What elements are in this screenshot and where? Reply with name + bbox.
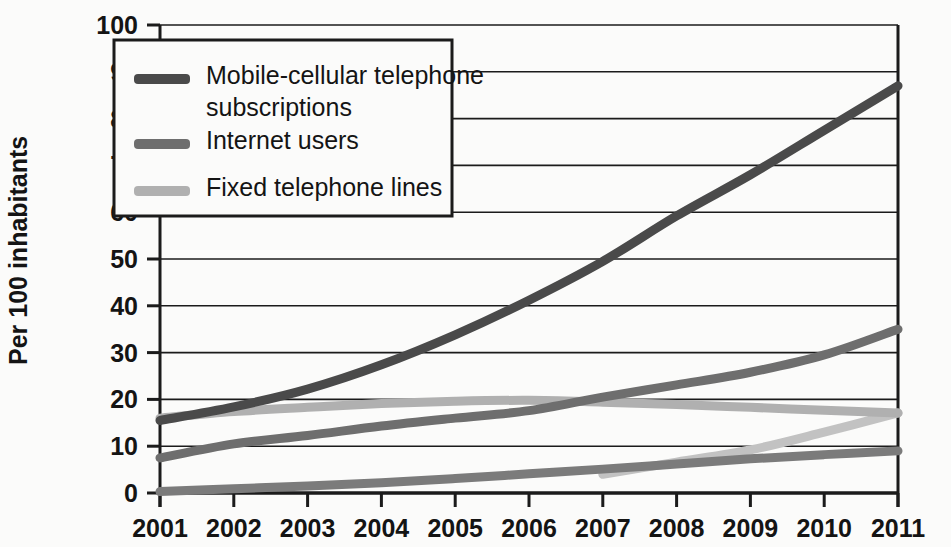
x-tick-label: 2010 (796, 514, 852, 542)
x-tick-label: 2007 (575, 514, 631, 542)
y-tick-label: 0 (124, 479, 138, 507)
legend: Mobile-cellular telephone subscriptions … (114, 40, 484, 216)
x-tick-label: 2003 (280, 514, 336, 542)
x-tick-label: 2008 (649, 514, 705, 542)
legend-swatch-internet (134, 139, 190, 149)
x-tick-label: 2009 (723, 514, 779, 542)
y-tick-label: 20 (110, 385, 138, 413)
y-axis-title: Per 100 inhabitants (4, 136, 32, 365)
x-tick-label: 2011 (871, 514, 925, 542)
y-tick-label: 100 (96, 11, 138, 39)
legend-label-internet: Internet users (206, 126, 359, 154)
y-tick-label: 50 (110, 245, 138, 273)
y-tick-label: 10 (110, 432, 138, 460)
x-tick-label: 2005 (427, 514, 483, 542)
x-tick-label: 2002 (206, 514, 262, 542)
legend-swatch-mobile (134, 74, 190, 84)
chart-container: 0102030405060708090100 20012002200320042… (0, 0, 951, 547)
legend-label-fixed: Fixed telephone lines (206, 173, 442, 201)
legend-label-mobile-line1: Mobile-cellular telephone (206, 61, 484, 89)
legend-swatch-fixed (134, 186, 190, 196)
line-chart: 0102030405060708090100 20012002200320042… (0, 0, 951, 547)
y-tick-label: 40 (110, 292, 138, 320)
legend-label-mobile-line2: subscriptions (206, 93, 352, 121)
x-tick-label: 2004 (354, 514, 410, 542)
y-tick-label: 30 (110, 339, 138, 367)
x-tick-label: 2001 (132, 514, 188, 542)
x-tick-label: 2006 (501, 514, 557, 542)
